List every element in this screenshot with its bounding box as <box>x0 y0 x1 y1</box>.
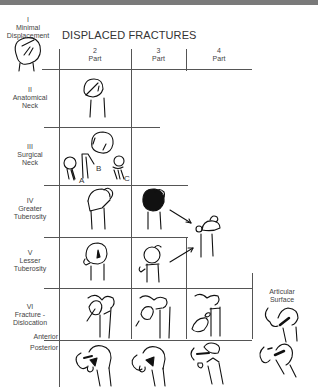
humerus-dislocation-posterior-3part-icon <box>132 347 165 386</box>
humerus-surgical-neck-icon <box>64 132 124 180</box>
humerus-greater-tuberosity-3part-icon <box>143 189 165 229</box>
humerus-dislocation-posterior-2part-icon <box>76 346 111 386</box>
humerus-dislocation-anterior-2part-icon <box>87 295 114 338</box>
label-part-b: B <box>96 164 101 173</box>
humerus-articular-surface-posterior-icon <box>260 344 296 377</box>
humerus-greater-tuberosity-2part-icon <box>88 188 113 229</box>
humerus-dislocation-posterior-4part-icon <box>191 343 223 384</box>
humerus-articular-surface-anterior-icon <box>265 308 298 342</box>
humerus-lesser-tuberosity-2part-icon <box>84 243 107 280</box>
humerus-4part-icon <box>196 216 220 257</box>
fracture-illustrations <box>0 0 318 391</box>
label-part-c: C <box>124 174 130 183</box>
label-part-a: A <box>79 176 84 185</box>
humerus-lesser-tuberosity-3part-icon <box>139 246 161 283</box>
humerus-anatomical-neck-2part-icon <box>84 79 105 117</box>
humerus-dislocation-anterior-4part-icon <box>192 294 220 336</box>
humerus-dislocation-anterior-3part-icon <box>136 296 170 338</box>
arrow-icons <box>170 210 193 262</box>
humerus-minimal-displacement-icon <box>15 38 40 71</box>
